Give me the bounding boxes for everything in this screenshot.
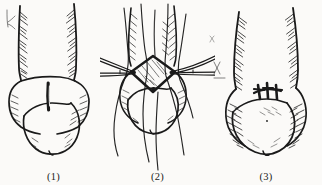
glans-dome [128, 88, 178, 133]
suture-stitch-1 [258, 85, 260, 99]
vertical-slit-incision-mark [48, 83, 49, 110]
panel-2-caption: (2) [100, 171, 215, 182]
glans-right-bulge [57, 81, 89, 134]
glans-dome-shading [30, 134, 72, 150]
shaft-hatching-left [19, 12, 28, 78]
coronal-sulcus-line [21, 77, 75, 81]
dome-speckle [266, 120, 268, 122]
shaft-outline-right [293, 8, 298, 88]
shaft-hatching-left [129, 14, 137, 60]
suture-stitch-1-cross [254, 89, 264, 90]
suture-stitch-3-cross [272, 89, 282, 90]
panel-1-incision-marking: (1) [0, 0, 107, 185]
suture-stitch-2 [267, 83, 268, 98]
panel-1-caption: (1) [0, 171, 107, 182]
shaft-hatching-right [162, 14, 175, 60]
panel-3-closed-sutured: (3) [210, 0, 322, 185]
glans-dome [232, 103, 294, 154]
glans-dome [24, 103, 80, 154]
glans-dome-upper-arc [233, 99, 287, 112]
panel-2-open-defect-with-forceps: (2) [100, 0, 215, 185]
forceps-right [174, 56, 215, 75]
stray-ink-mark-arrow [214, 62, 225, 78]
figure-root: (1) [0, 0, 322, 185]
shaft-outline-left [129, 8, 131, 66]
glans-dome-hatching [248, 107, 281, 148]
panel-3-caption: (3) [210, 171, 322, 182]
shaft-midline [154, 10, 155, 56]
stray-ink-mark-left [7, 10, 15, 29]
suture-stitch-3 [276, 85, 277, 99]
shaft-hatching-right [66, 10, 75, 77]
